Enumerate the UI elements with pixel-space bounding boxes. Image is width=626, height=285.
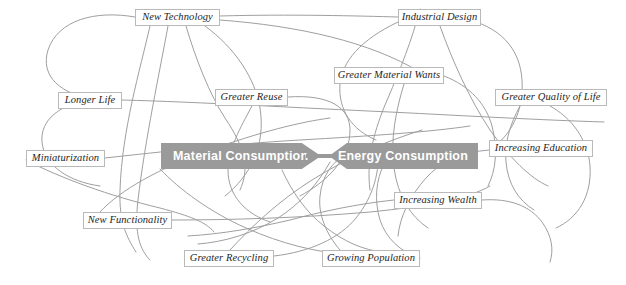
- node-label: Greater Recycling: [190, 253, 269, 264]
- node-greater-recycling[interactable]: Greater Recycling: [184, 250, 274, 267]
- banner-energy-consumption[interactable]: Energy Consumption: [329, 143, 478, 169]
- node-label: Miniaturization: [32, 153, 99, 164]
- node-label: Increasing Education: [495, 143, 587, 154]
- node-label: Increasing Wealth: [399, 195, 477, 206]
- node-greater-reuse[interactable]: Greater Reuse: [215, 89, 288, 106]
- node-label: Greater Quality of Life: [501, 92, 600, 103]
- node-miniaturization[interactable]: Miniaturization: [26, 150, 105, 167]
- node-label: Industrial Design: [402, 12, 478, 23]
- banner-energy-consumption-label: Energy Consumption: [338, 149, 468, 163]
- node-industrial-design[interactable]: Industrial Design: [398, 9, 481, 26]
- node-increasing-education[interactable]: Increasing Education: [489, 140, 593, 157]
- node-growing-population[interactable]: Growing Population: [322, 250, 420, 267]
- node-label: Greater Material Wants: [338, 70, 440, 81]
- banner-material-consumption[interactable]: Material Consumption: [161, 143, 321, 169]
- concept-map-diagram: Material Consumption Energy Consumption …: [0, 0, 626, 285]
- node-longer-life[interactable]: Longer Life: [58, 92, 122, 109]
- node-layer: Material Consumption Energy Consumption …: [0, 0, 626, 285]
- node-label: Longer Life: [65, 95, 115, 106]
- node-label: New Technology: [142, 12, 213, 23]
- node-new-functionality[interactable]: New Functionality: [83, 212, 172, 229]
- node-greater-quality-of-life[interactable]: Greater Quality of Life: [495, 89, 607, 106]
- node-increasing-wealth[interactable]: Increasing Wealth: [394, 192, 482, 209]
- node-label: New Functionality: [88, 215, 168, 226]
- banner-material-consumption-label: Material Consumption: [173, 149, 308, 163]
- node-label: Growing Population: [327, 253, 415, 264]
- node-new-technology[interactable]: New Technology: [135, 9, 220, 26]
- node-greater-material-wants[interactable]: Greater Material Wants: [334, 67, 444, 84]
- node-label: Greater Reuse: [221, 92, 283, 103]
